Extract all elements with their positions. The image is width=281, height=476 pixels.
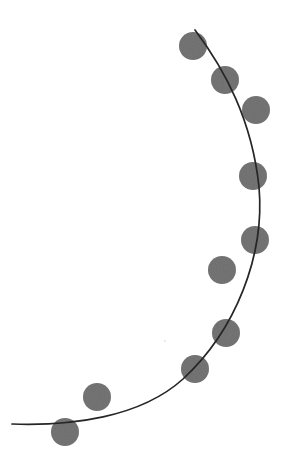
marker-dot	[208, 256, 236, 284]
artifact-group	[164, 340, 166, 342]
plot-canvas	[0, 0, 281, 476]
marker-dot	[211, 66, 239, 94]
marker-dot	[242, 96, 270, 124]
marker-dot	[83, 383, 111, 411]
marker-dot	[212, 319, 240, 347]
plot-svg	[0, 0, 281, 476]
marker-dot	[179, 32, 207, 60]
marker-dot	[239, 162, 267, 190]
speck-artifact	[164, 340, 166, 342]
marker-dot	[181, 355, 209, 383]
